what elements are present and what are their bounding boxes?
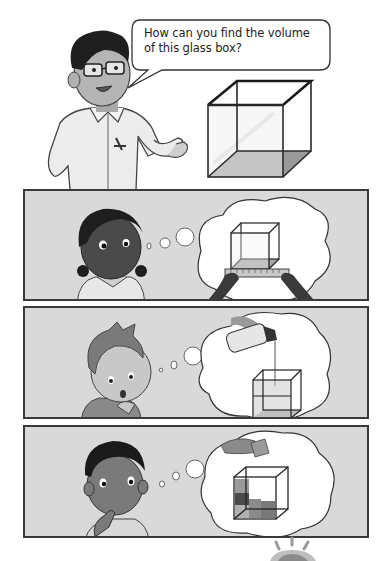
speech-line-2: of this glass box?	[144, 41, 328, 56]
panel-3	[23, 425, 369, 538]
lightbulb-icon	[250, 536, 330, 561]
speech-bubble-text: How can you find the volume of this glas…	[144, 26, 328, 56]
panel-2	[23, 306, 369, 419]
panel-1	[23, 189, 369, 301]
glass-box-illustration	[200, 75, 320, 185]
speech-line-1: How can you find the volume	[144, 26, 328, 41]
